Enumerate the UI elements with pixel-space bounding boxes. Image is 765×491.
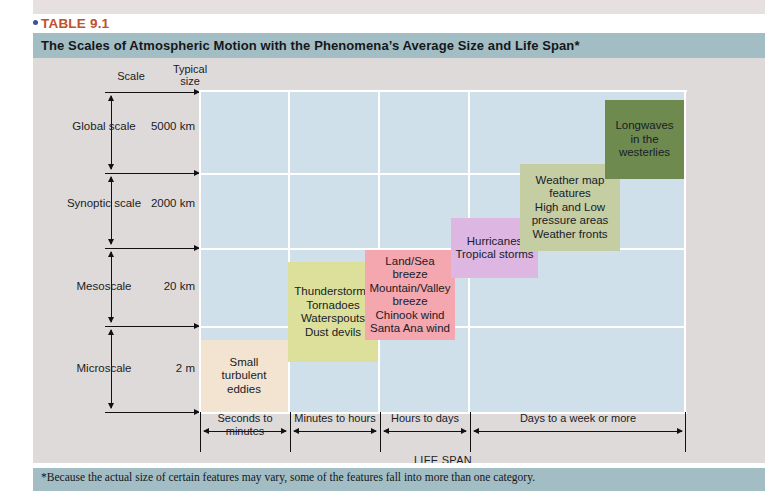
footnote-text: *Because the actual size of certain feat… [41, 471, 535, 483]
lifespan-label-seconds: Seconds to minutes [200, 412, 290, 438]
tick-arrow-synoptic-meso [105, 248, 199, 249]
top-band [33, 0, 765, 14]
scale-label-mesoscale: Mesoscale [65, 280, 143, 293]
lifespan-label-minutes: Minutes to hours [290, 412, 380, 425]
size-value-global: 5000 km [135, 120, 195, 132]
plot-edge-right [684, 90, 686, 414]
scale-label-global: Global scale [65, 120, 143, 133]
tick-arrow-global-synoptic [105, 173, 199, 174]
tick-arrow-bottom [105, 412, 199, 413]
plot-area: Small turbulent eddies Thunderstorms Tor… [200, 92, 684, 412]
lifespan-segment-hours: Hours to days [380, 412, 470, 452]
scale-label-microscale: Microscale [65, 362, 143, 375]
figure-root: TABLE 9.1 The Scales of Atmospheric Moti… [0, 0, 765, 491]
diagram-body: Scale Typical size Global scale Synoptic… [33, 58, 765, 463]
lifespan-segment-minutes: Minutes to hours [290, 412, 380, 452]
lifespan-segment-days: Days to a week or more [470, 412, 686, 452]
table-number-label: TABLE 9.1 [41, 16, 109, 31]
table-header-bar: The Scales of Atmospheric Motion with th… [33, 33, 765, 58]
plot-edge-top [199, 90, 687, 92]
typical-size-header-line2: size [161, 75, 219, 88]
lifespan-label-hours: Hours to days [380, 412, 470, 425]
size-value-microscale: 2 m [135, 362, 195, 374]
size-value-synoptic: 2000 km [135, 197, 195, 209]
size-value-mesoscale: 20 km [135, 280, 195, 292]
lifespan-arrow-days [474, 431, 682, 432]
span-arrow-synoptic [111, 177, 112, 244]
lifespan-segment-seconds: Seconds to minutes [200, 412, 290, 452]
table-number-caption: TABLE 9.1 [33, 14, 109, 32]
grid-vline-seconds-minutes [288, 92, 290, 412]
plot-edge-left [199, 90, 201, 414]
box-land-sea-breeze: Land/Sea breeze Mountain/Valley breeze C… [365, 250, 455, 340]
lifespan-axis: Seconds to minutes Minutes to hours Hour… [200, 412, 686, 452]
left-axis: Scale Typical size Global scale Synoptic… [33, 58, 200, 463]
lifespan-arrow-hours [384, 431, 466, 432]
box-small-turbulent-eddies: Small turbulent eddies [200, 340, 288, 412]
scale-header: Scale [101, 70, 161, 83]
lifespan-label-days: Days to a week or more [470, 412, 686, 425]
lifespan-arrow-minutes [294, 431, 376, 432]
typical-size-header-line1: Typical [161, 63, 219, 76]
scale-label-synoptic: Synoptic scale [65, 197, 143, 210]
table-title: The Scales of Atmospheric Motion with th… [41, 38, 580, 53]
bullet-icon [33, 20, 38, 25]
tick-arrow-meso-micro [105, 326, 199, 327]
box-longwaves-westerlies: Longwaves in the westerlies [605, 100, 684, 179]
tick-arrow-top [105, 92, 199, 93]
